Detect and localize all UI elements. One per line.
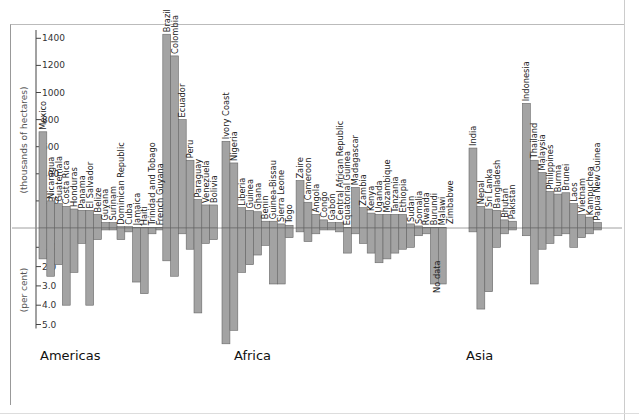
bar-rate xyxy=(47,228,55,276)
bar-rate xyxy=(359,228,367,243)
bar-area xyxy=(101,223,109,228)
bar-rate xyxy=(546,228,554,243)
country-label: Peru xyxy=(185,140,195,158)
country-label: Papua New Guinea xyxy=(592,142,602,220)
bar-area xyxy=(509,221,517,228)
bar-rate xyxy=(39,228,47,259)
bar-rate xyxy=(336,228,344,232)
bar-rate xyxy=(78,228,86,243)
deforestation-bar-chart: 2004006008001000120014001.02.03.04.05.0(… xyxy=(0,0,639,420)
country-label: Togo xyxy=(284,204,294,224)
bar-rate xyxy=(391,228,399,253)
region-label: Americas xyxy=(40,348,101,363)
bar-area xyxy=(375,214,383,228)
bar-rate xyxy=(238,228,246,272)
bar-area xyxy=(55,204,63,228)
bar-rate xyxy=(262,228,270,245)
bar-rate xyxy=(101,228,109,230)
bar-rate xyxy=(562,228,570,234)
bar-rate xyxy=(383,228,391,259)
bar-area xyxy=(210,205,218,228)
bar-rate xyxy=(70,228,78,272)
bar-rate xyxy=(163,228,171,261)
upper-tick-label: 1200 xyxy=(42,60,65,70)
bar-rate xyxy=(375,228,383,263)
bar-area xyxy=(554,194,562,228)
bar-area xyxy=(546,191,554,228)
bar-rate xyxy=(246,228,254,265)
region-labels: AmericasAfricaAsia xyxy=(40,348,493,363)
bar-rate xyxy=(328,228,336,230)
upper-tick-label: 1000 xyxy=(42,88,65,98)
bar-rate xyxy=(399,228,407,249)
bar-rate xyxy=(407,228,415,247)
bar-rate xyxy=(86,228,94,305)
bar-rate xyxy=(594,228,602,230)
bar-area xyxy=(594,223,602,228)
lower-tick-label: 5.0 xyxy=(42,320,57,330)
bar-rate xyxy=(554,228,562,236)
bar-area xyxy=(47,201,55,228)
bar-rate xyxy=(296,228,304,232)
country-label: Nigeria xyxy=(229,131,239,161)
country-label: Mexico xyxy=(38,101,48,130)
bar-rate xyxy=(109,228,117,230)
bar-area xyxy=(578,214,586,228)
bar-area xyxy=(477,206,485,228)
bar-rate xyxy=(269,228,277,284)
bar-rate xyxy=(222,228,230,344)
bar-area xyxy=(391,214,399,228)
lower-tick-label: 4.0 xyxy=(42,300,57,310)
bar-area xyxy=(383,214,391,228)
bar-area xyxy=(277,224,285,228)
bar-area xyxy=(238,208,246,228)
region-label: Africa xyxy=(234,348,271,363)
bar-rate xyxy=(194,228,202,313)
bar-rate xyxy=(509,228,517,230)
bar-rate xyxy=(140,228,148,294)
country-label: Ecuador xyxy=(177,83,187,117)
bar-rate xyxy=(94,228,102,240)
lower-axis-label: (per cent) xyxy=(19,268,29,313)
bar-rate xyxy=(55,228,63,265)
bar-rate xyxy=(501,228,509,234)
bar-area xyxy=(78,210,86,228)
bar-area xyxy=(171,56,179,228)
bar-rate xyxy=(530,228,538,284)
no-data-label: No data xyxy=(432,260,442,293)
bar-area xyxy=(522,103,530,228)
bar-rate xyxy=(171,228,179,276)
country-label: Indonesia xyxy=(521,61,531,101)
bar-rate xyxy=(570,228,578,247)
bar-rate xyxy=(538,228,546,249)
bar-rate xyxy=(586,228,594,234)
upper-tick-label: 1400 xyxy=(42,33,65,43)
country-label: Bolivia xyxy=(209,175,219,203)
bar-rate xyxy=(477,228,485,309)
bar-rate xyxy=(62,228,70,305)
upper-axis-label: (thousands of hectares) xyxy=(19,86,29,193)
bar-rate xyxy=(351,228,359,234)
country-label: Colombia xyxy=(170,15,180,54)
bar-rate xyxy=(312,228,320,234)
bar-rate xyxy=(423,228,431,234)
bar-rate xyxy=(578,228,586,238)
bar-area xyxy=(501,220,509,228)
bar-rate xyxy=(285,228,293,238)
bar-area xyxy=(62,206,70,228)
bar-area xyxy=(285,225,293,228)
bar-rate xyxy=(320,228,328,230)
bar-rate xyxy=(178,228,186,234)
bar-rate xyxy=(117,228,125,240)
bar-area xyxy=(367,213,375,228)
region-label: Asia xyxy=(466,348,493,363)
country-label: India xyxy=(468,126,478,146)
bar-rate xyxy=(230,228,238,330)
bar-rate xyxy=(210,228,218,240)
bar-rate xyxy=(277,228,285,284)
bar-rate xyxy=(254,228,262,255)
bar-rate xyxy=(367,228,375,253)
country-label: French Guyana xyxy=(155,163,165,225)
country-labels: MexicoNicaraguaGuatemalaCosta RicaHondur… xyxy=(38,9,603,293)
bar-rate xyxy=(469,228,477,232)
